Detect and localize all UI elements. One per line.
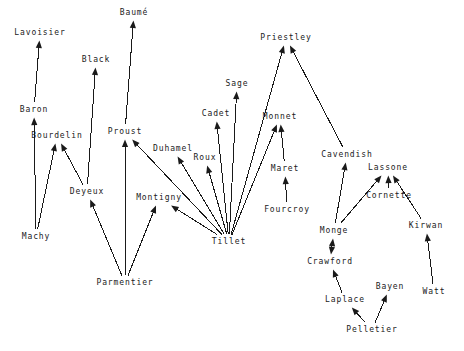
node-bourdelin[interactable]: Bourdelin bbox=[31, 132, 82, 140]
node-watt[interactable]: Watt bbox=[423, 288, 446, 296]
edge-line bbox=[341, 179, 379, 224]
edge-line bbox=[281, 129, 284, 162]
edge-pelletier-to-bayen bbox=[375, 295, 387, 323]
edge-tillet-to-cadet bbox=[214, 122, 228, 235]
edge-cornette-to-lassone bbox=[385, 176, 391, 189]
arrowhead bbox=[150, 206, 156, 214]
edge-monge-to-crawford bbox=[329, 239, 335, 255]
arrowhead bbox=[329, 247, 335, 255]
edge-parmentier-to-montigny bbox=[128, 206, 156, 276]
edge-line bbox=[375, 298, 385, 322]
edge-fourcroy-to-maret bbox=[283, 177, 289, 203]
edge-parmentier-to-deyeux bbox=[90, 200, 122, 276]
arrowhead bbox=[31, 118, 37, 126]
edge-deyeux-to-bourdelin bbox=[61, 144, 83, 185]
edge-tillet-to-roux bbox=[206, 166, 227, 235]
edge-line bbox=[88, 72, 96, 185]
edge-line bbox=[38, 148, 55, 230]
arrowhead bbox=[178, 157, 185, 165]
edge-line bbox=[427, 238, 433, 285]
graph-canvas: LavoisierBauméPriestleyBlackSageBaronCad… bbox=[0, 0, 464, 351]
node-baron[interactable]: Baron bbox=[20, 106, 49, 114]
arrowhead bbox=[381, 295, 387, 303]
node-roux[interactable]: Roux bbox=[194, 154, 217, 162]
node-machy[interactable]: Machy bbox=[22, 233, 51, 241]
node-sage[interactable]: Sage bbox=[226, 80, 249, 88]
edge-line bbox=[92, 203, 122, 275]
node-lavoisier[interactable]: Lavoisier bbox=[14, 29, 65, 37]
edge-maret-to-monnet bbox=[278, 125, 284, 162]
arrowhead bbox=[90, 200, 96, 208]
arrowhead bbox=[271, 125, 277, 133]
node-black[interactable]: Black bbox=[82, 56, 111, 64]
node-cadet[interactable]: Cadet bbox=[202, 110, 231, 118]
node-monge[interactable]: Monge bbox=[320, 227, 349, 235]
edge-line bbox=[292, 49, 343, 147]
edge-line bbox=[208, 170, 227, 235]
arrowhead bbox=[130, 21, 136, 29]
node-cavendish[interactable]: Cavendish bbox=[321, 151, 372, 159]
node-tillet[interactable]: Tillet bbox=[212, 238, 246, 246]
edge-tillet-to-monnet bbox=[232, 125, 277, 235]
edge-line bbox=[128, 209, 154, 275]
edge-line bbox=[217, 126, 228, 235]
node-crawford[interactable]: Crawford bbox=[307, 258, 353, 266]
edge-proust-to-baume bbox=[126, 21, 136, 125]
arrowhead bbox=[278, 125, 284, 133]
edge-cavendish-to-priestley bbox=[290, 46, 343, 148]
edge-line bbox=[35, 45, 39, 103]
node-proust[interactable]: Proust bbox=[108, 128, 142, 136]
edge-monge-to-cavendish bbox=[335, 163, 347, 224]
arrowhead bbox=[171, 206, 179, 213]
edge-baron-to-lavoisier bbox=[35, 41, 42, 103]
node-pelletier[interactable]: Pelletier bbox=[346, 326, 397, 334]
node-monnet[interactable]: Monnet bbox=[263, 113, 297, 121]
arrowhead bbox=[329, 239, 335, 247]
edge-line bbox=[232, 128, 275, 234]
edge-laplace-to-crawford bbox=[333, 270, 342, 293]
arrowhead bbox=[233, 92, 239, 100]
arrowhead bbox=[385, 176, 391, 184]
arrowhead bbox=[425, 234, 431, 242]
edge-parmentier-to-proust bbox=[122, 140, 128, 276]
arrowhead bbox=[283, 177, 289, 185]
node-fourcroy[interactable]: Fourcroy bbox=[264, 206, 310, 214]
node-cornette[interactable]: Cornette bbox=[366, 192, 412, 200]
edge-pelletier-to-laplace bbox=[352, 308, 365, 323]
edge-line bbox=[229, 96, 236, 235]
arrowhead bbox=[393, 176, 400, 184]
edge-line bbox=[63, 147, 83, 184]
node-baume[interactable]: Baumé bbox=[120, 9, 149, 17]
edge-line bbox=[335, 167, 345, 224]
edge-machy-to-bourdelin bbox=[38, 144, 57, 230]
arrowhead bbox=[36, 41, 42, 49]
arrowhead bbox=[92, 68, 98, 76]
arrowhead bbox=[206, 166, 212, 174]
arrowhead bbox=[279, 46, 285, 54]
arrowhead bbox=[333, 270, 339, 278]
edge-deyeux-to-black bbox=[88, 68, 99, 185]
node-kirwan[interactable]: Kirwan bbox=[409, 222, 443, 230]
node-duhamel[interactable]: Duhamel bbox=[153, 145, 193, 153]
arrowhead bbox=[122, 140, 128, 148]
node-priestley[interactable]: Priestley bbox=[260, 34, 311, 42]
edge-watt-to-kirwan bbox=[425, 234, 433, 285]
node-montigny[interactable]: Montigny bbox=[136, 194, 182, 202]
node-parmentier[interactable]: Parmentier bbox=[96, 279, 153, 287]
edge-tillet-to-sage bbox=[229, 92, 239, 235]
edge-layer bbox=[0, 0, 464, 351]
arrowhead bbox=[341, 163, 347, 171]
node-laplace[interactable]: Laplace bbox=[325, 296, 365, 304]
node-maret[interactable]: Maret bbox=[271, 165, 300, 173]
node-deyeux[interactable]: Deyeux bbox=[70, 188, 104, 196]
arrowhead bbox=[214, 122, 220, 130]
arrowhead bbox=[51, 144, 57, 152]
node-lassone[interactable]: Lassone bbox=[368, 164, 408, 172]
node-bayen[interactable]: Bayen bbox=[376, 283, 405, 291]
edge-line bbox=[126, 25, 134, 125]
